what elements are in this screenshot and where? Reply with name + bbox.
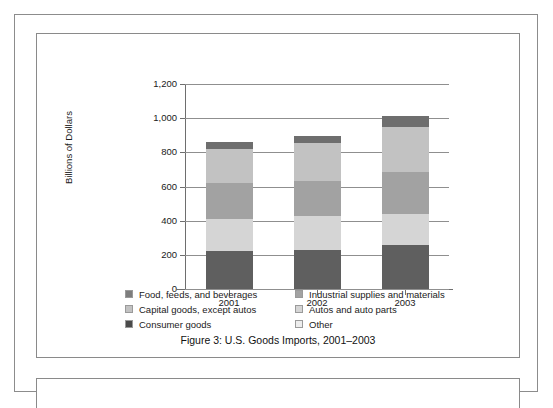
bar-segment — [206, 251, 253, 289]
y-axis-tick-mark — [180, 187, 185, 188]
bar-segment — [382, 127, 429, 172]
legend-item: Industrial supplies and materials — [295, 287, 485, 301]
legend-item: Other — [295, 317, 485, 331]
legend-swatch-icon — [295, 305, 303, 313]
bar-segment — [382, 214, 429, 245]
bar-segment — [294, 136, 341, 143]
y-axis-tick-mark — [180, 118, 185, 119]
legend-item-label: Autos and auto parts — [309, 304, 397, 315]
legend-item-label: Other — [309, 319, 333, 330]
bar-segment — [294, 181, 341, 216]
legend-item: Capital goods, except autos — [125, 302, 300, 316]
bar-segment — [206, 183, 253, 219]
y-axis-tick-label: 1,200 — [133, 79, 177, 89]
bar-segment — [294, 216, 341, 250]
legend-swatch-icon — [295, 290, 303, 298]
y-axis-tick-label: 1,000 — [133, 113, 177, 123]
bar-segment — [382, 116, 429, 127]
legend-column-left: Food, feeds, and beveragesCapital goods,… — [125, 287, 300, 332]
legend-swatch-icon — [125, 305, 133, 313]
legend-column-right: Industrial supplies and materialsAutos a… — [295, 287, 485, 332]
bar-2002 — [294, 136, 341, 289]
legend-item: Consumer goods — [125, 317, 300, 331]
bar-segment — [382, 172, 429, 214]
bar-segment — [206, 219, 253, 251]
figure-caption: Figure 3: U.S. Goods Imports, 2001–2003 — [37, 334, 519, 346]
y-axis-tick-mark — [180, 255, 185, 256]
y-axis-tick-label: 200 — [133, 250, 177, 260]
bar-segment — [206, 149, 253, 183]
bar-segment — [206, 142, 253, 149]
next-figure-box — [36, 378, 520, 408]
y-axis-tick-mark — [180, 152, 185, 153]
bar-2001 — [206, 142, 253, 289]
legend-item-label: Industrial supplies and materials — [309, 289, 445, 300]
stacked-bar-chart: Billions of Dollars 02004006008001,0001,… — [37, 34, 519, 284]
legend-swatch-icon — [295, 320, 303, 328]
legend-item-label: Capital goods, except autos — [139, 304, 256, 315]
plot-area — [185, 84, 449, 289]
bar-2003 — [382, 116, 429, 289]
legend-item: Autos and auto parts — [295, 302, 485, 316]
y-axis-tick-label: 600 — [133, 182, 177, 192]
legend-item: Food, feeds, and beverages — [125, 287, 300, 301]
y-axis-tick-mark — [180, 84, 185, 85]
y-axis-tick-labels: 02004006008001,0001,200 — [133, 34, 177, 284]
y-axis-tick-mark — [180, 221, 185, 222]
legend-swatch-icon — [125, 320, 133, 328]
y-axis-tick-label: 800 — [133, 147, 177, 157]
bar-segment — [294, 143, 341, 181]
bar-segment — [382, 245, 429, 289]
y-axis-title: Billions of Dollars — [63, 88, 74, 208]
figure-box: Billions of Dollars 02004006008001,0001,… — [36, 33, 520, 358]
y-axis-tick-label: 400 — [133, 216, 177, 226]
bar-segment — [294, 250, 341, 289]
gridline — [185, 84, 449, 85]
legend-item-label: Food, feeds, and beverages — [139, 289, 257, 300]
legend-item-label: Consumer goods — [139, 319, 211, 330]
legend-swatch-icon — [125, 290, 133, 298]
chart-legend: Food, feeds, and beveragesCapital goods,… — [125, 287, 485, 331]
